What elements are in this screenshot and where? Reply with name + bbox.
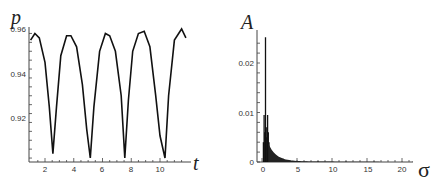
- figure: 0.96 0.94 0.92 2 4 6 8 10 p t 0.02 0.01 …: [0, 0, 438, 188]
- x-tick-label: 15: [364, 165, 373, 174]
- x-axis-label: t: [193, 152, 199, 174]
- y-axis-label: p: [9, 6, 21, 29]
- x-tick-label: 5: [296, 165, 301, 174]
- y-axis-label: A: [239, 11, 254, 33]
- chart-A-vs-sigma: 0.02 0.01 0 0 5 10 15 20 A σ: [238, 11, 430, 182]
- x-tick-label: 20: [398, 165, 407, 174]
- y-tick-label: 0: [250, 158, 255, 167]
- x-tick-label: 0: [261, 165, 266, 174]
- x-tick-label: 6: [100, 165, 105, 174]
- x-tick-label: 10: [156, 165, 165, 174]
- y-tick-label: 0.01: [238, 109, 254, 118]
- y-tick-label: 0.94: [10, 70, 26, 79]
- x-tick-label: 2: [43, 165, 48, 174]
- x-tick-label: 10: [329, 165, 338, 174]
- chart-p-vs-t: 0.96 0.94 0.92 2 4 6 8 10 p t: [9, 6, 199, 174]
- p-curve: [31, 29, 186, 158]
- y-tick-label: 0.92: [10, 114, 26, 123]
- x-tick-label: 4: [72, 165, 77, 174]
- x-tick-label: 8: [129, 165, 134, 174]
- x-axis-label: σ: [418, 157, 430, 182]
- tick-marks: [257, 43, 409, 162]
- spectrum-curve: [262, 37, 413, 162]
- y-tick-label: 0.02: [238, 59, 254, 68]
